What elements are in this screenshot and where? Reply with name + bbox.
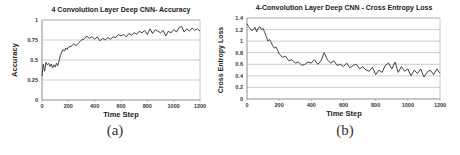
y-tick-label: 0.75 [27,37,38,43]
plot-area: 00.20.40.60.811.21.402004006008001000120… [235,15,446,108]
caption: (a) [0,122,230,139]
x-tick-label: 1000 [168,103,180,109]
x-tick-label: 400 [90,103,99,109]
y-tick-label: 0.2 [235,84,243,90]
y-tick-label: 1 [35,17,38,23]
x-tick-label: 0 [40,103,43,109]
y-tick-label: 0.6 [235,61,243,67]
x-tick-label: 1000 [402,102,414,108]
y-tick-label: 0.5 [30,57,38,63]
loss-chart-panel: 4-Convolution Layer Deep CNN - Cross Ent… [230,0,460,155]
y-tick-label: 0 [35,97,38,103]
x-axis-label: Time Step [326,109,362,118]
x-tick-label: 0 [245,102,248,108]
plot-frame [247,18,440,99]
y-tick-label: 0.25 [27,77,38,83]
y-tick-label: 0.8 [235,50,243,56]
x-tick-label: 400 [307,102,316,108]
x-tick-label: 1200 [434,102,446,108]
x-tick-label: 200 [64,103,73,109]
y-axis-label: Cross Entropy Loss [217,27,225,94]
y-tick-label: 1.4 [235,15,244,21]
x-tick-label: 800 [371,102,380,108]
x-tick-label: 1200 [194,103,206,109]
caption: (b) [230,122,460,139]
y-tick-label: 0.4 [235,73,244,79]
x-tick-label: 800 [143,103,152,109]
x-tick-label: 600 [339,102,348,108]
chart-title: 4-Convolution Layer Deep CNN - Cross Ent… [256,4,433,12]
x-tick-label: 200 [275,102,284,108]
y-tick-label: 1 [240,38,243,44]
x-axis-label: Time Step [103,110,139,119]
x-tick-label: 600 [116,103,125,109]
y-axis-label: Accuracy [10,42,19,77]
plot-area: 00.250.50.751020040060080010001200 [27,17,206,109]
y-tick-label: 0 [240,96,243,102]
loss-chart: 4-Convolution Layer Deep CNN - Cross Ent… [230,0,460,120]
loss-y-axis-label-container: Cross Entropy Loss [210,0,230,120]
accuracy-chart-panel: 4 Convolution Layer Deep CNN- Accuracy T… [0,0,230,155]
chart-title: 4 Convolution Layer Deep CNN- Accuracy [52,6,191,14]
accuracy-chart: 4 Convolution Layer Deep CNN- Accuracy T… [0,0,230,120]
y-tick-label: 1.2 [235,27,243,33]
